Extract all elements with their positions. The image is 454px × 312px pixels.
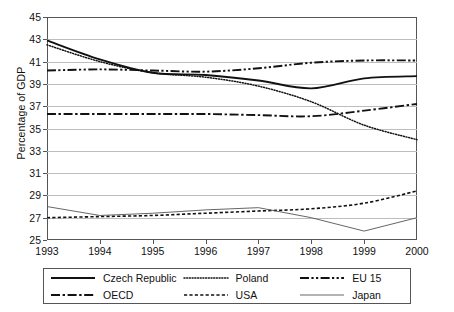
y-tick-mark [43, 17, 47, 18]
x-tick-mark [153, 240, 154, 244]
legend-swatch-eu-15 [299, 273, 345, 283]
legend-item-czech-republic[interactable]: Czech Republic [44, 269, 177, 286]
y-tick-mark [43, 240, 47, 241]
x-tick-mark [364, 240, 365, 244]
y-tick-mark [43, 195, 47, 196]
legend-swatch-czech-republic [50, 273, 96, 283]
legend-item-eu-15[interactable]: EU 15 [293, 269, 410, 286]
legend-label-usa: USA [229, 289, 258, 301]
x-tick-label: 1999 [339, 245, 389, 257]
x-tick-label: 1996 [181, 245, 231, 257]
y-axis-ticks: 2527293133353739414345 [17, 0, 41, 312]
y-tick-mark [43, 84, 47, 85]
y-tick-mark [43, 62, 47, 63]
legend-item-japan[interactable]: Japan [293, 286, 410, 303]
y-tick-mark [43, 129, 47, 130]
y-tick-label: 35 [19, 124, 41, 134]
legend-label-oecd: OECD [96, 289, 133, 301]
x-tick-mark [311, 240, 312, 244]
y-tick-mark [43, 218, 47, 219]
legend-item-poland[interactable]: Poland [177, 269, 294, 286]
x-tick-mark [258, 240, 259, 244]
x-tick-label: 1998 [286, 245, 336, 257]
x-tick-label: 1994 [75, 245, 125, 257]
y-tick-label: 29 [19, 190, 41, 200]
legend-label-eu-15: EU 15 [345, 272, 381, 284]
y-tick-label: 37 [19, 101, 41, 111]
series-line-oecd [47, 104, 417, 116]
figure: Percentage of GDP 2527293133353739414345… [0, 0, 454, 312]
x-tick-mark [100, 240, 101, 244]
x-tick-label: 1997 [233, 245, 283, 257]
legend-swatch-oecd [50, 290, 96, 300]
plot-area [47, 17, 417, 240]
x-tick-mark [206, 240, 207, 244]
y-tick-label: 43 [19, 34, 41, 44]
legend-item-usa[interactable]: USA [177, 286, 294, 303]
y-tick-label: 33 [19, 146, 41, 156]
x-tick-label: 1995 [128, 245, 178, 257]
legend-swatch-poland [183, 273, 229, 283]
legend-swatch-japan [299, 290, 345, 300]
legend: Czech RepublicPolandEU 15OECDUSAJapan [43, 268, 411, 304]
series-line-usa [47, 191, 417, 218]
y-tick-label: 45 [19, 12, 41, 22]
y-tick-label: 39 [19, 79, 41, 89]
x-tick-label: 1993 [22, 245, 72, 257]
legend-item-oecd[interactable]: OECD [44, 286, 177, 303]
y-tick-label: 25 [19, 235, 41, 245]
y-tick-mark [43, 39, 47, 40]
series-lines [47, 17, 417, 240]
y-tick-label: 27 [19, 213, 41, 223]
y-tick-mark [43, 173, 47, 174]
legend-label-japan: Japan [345, 289, 381, 301]
series-line-japan [47, 207, 417, 232]
y-tick-mark [43, 151, 47, 152]
legend-swatch-usa [183, 290, 229, 300]
legend-label-czech-republic: Czech Republic [96, 272, 177, 284]
y-tick-label: 41 [19, 57, 41, 67]
legend-label-poland: Poland [229, 272, 269, 284]
x-tick-label: 2000 [392, 245, 442, 257]
y-tick-label: 31 [19, 168, 41, 178]
series-line-poland [47, 45, 417, 140]
y-tick-mark [43, 106, 47, 107]
